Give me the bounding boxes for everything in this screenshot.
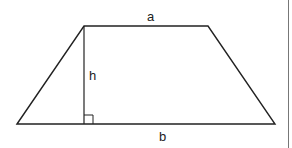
label-top-base-a: a bbox=[147, 9, 155, 24]
trapezoid-diagram: a h b bbox=[0, 0, 292, 148]
label-bottom-base-b: b bbox=[159, 129, 166, 144]
background bbox=[0, 0, 292, 148]
label-height-h: h bbox=[89, 68, 96, 83]
